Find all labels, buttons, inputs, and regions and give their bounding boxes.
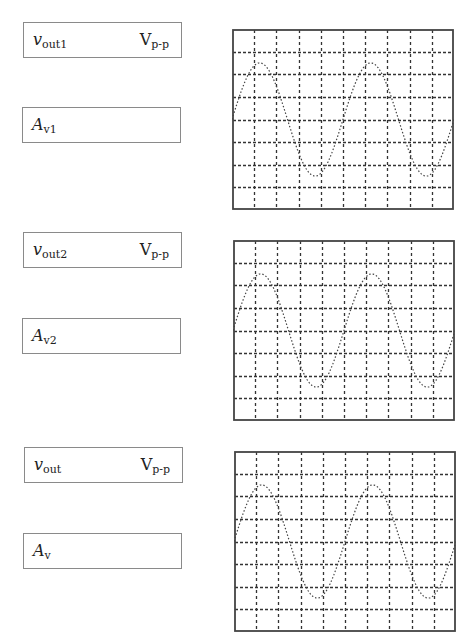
av2-field[interactable]: Av2	[22, 318, 181, 354]
vout1-unit: Vp-p	[140, 31, 169, 54]
vout-unit: Vp-p	[141, 456, 170, 479]
vout2-label: vout2	[33, 241, 67, 264]
vout-field[interactable]: vout Vp-p	[24, 447, 183, 483]
scope-screen-stage2	[233, 240, 455, 421]
av-field[interactable]: Av	[23, 533, 182, 569]
vout2-unit: Vp-p	[140, 241, 169, 264]
scope-screen-overall	[234, 451, 456, 632]
scope-screen-stage1	[232, 29, 454, 210]
av1-field[interactable]: Av1	[22, 107, 181, 143]
av2-label: Av2	[32, 327, 57, 350]
vout2-field[interactable]: vout2 Vp-p	[23, 232, 182, 268]
av1-label: Av1	[32, 116, 57, 139]
vout1-field[interactable]: vout1 Vp-p	[23, 22, 182, 58]
vout1-label: vout1	[33, 31, 67, 54]
av-label: Av	[33, 542, 51, 565]
vout-label: vout	[34, 456, 61, 479]
